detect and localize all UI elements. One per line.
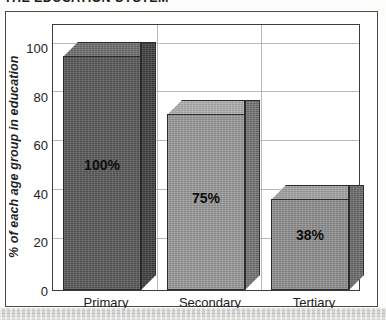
y-axis-title: % of each age group in education <box>7 48 21 258</box>
y-tick-label: 40 <box>22 186 48 201</box>
y-tick-label: 20 <box>22 235 48 250</box>
scan-artifact-band <box>0 308 386 320</box>
y-tick-label: 0 <box>22 284 48 299</box>
bar-value-label: 75% <box>167 190 245 206</box>
bar-value-label: 38% <box>271 227 349 243</box>
y-axis-tick-labels: 100 80 60 40 20 0 <box>20 0 48 320</box>
y-tick-label: 100 <box>22 41 48 56</box>
y-tick-label: 80 <box>22 89 48 104</box>
bar-value-label: 100% <box>63 157 141 173</box>
y-tick-label: 60 <box>22 138 48 153</box>
